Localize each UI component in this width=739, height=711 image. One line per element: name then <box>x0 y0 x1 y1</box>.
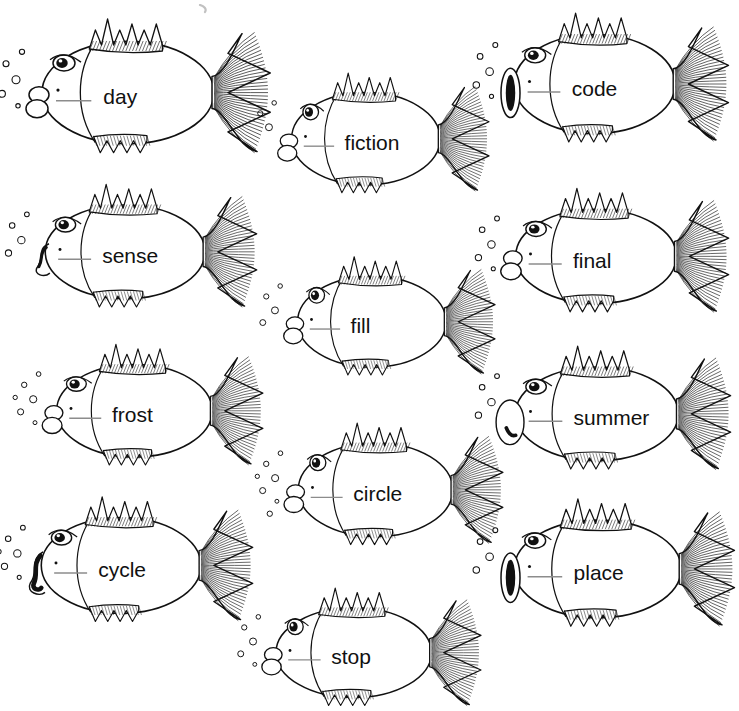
fish-word: frost <box>112 403 153 426</box>
fish-code-drawing: code <box>482 6 734 156</box>
fish-frost: frost <box>26 338 268 478</box>
fish-sense: sense <box>14 178 262 320</box>
fish-word: summer <box>574 406 650 429</box>
fish-word: sense <box>102 244 158 267</box>
fish-summer-drawing: summer <box>484 340 736 482</box>
fish-word: place <box>574 561 624 584</box>
fish-word: fiction <box>345 131 400 154</box>
fish-place: place <box>482 492 739 640</box>
fish-frost-drawing: frost <box>26 338 268 478</box>
fish-word: stop <box>331 645 371 668</box>
fish-word: cycle <box>98 558 146 581</box>
fish-word: fill <box>351 314 371 337</box>
worksheet-canvas: day fiction code sense final fill frost … <box>0 0 739 711</box>
fish-stop-drawing: stop <box>246 582 486 711</box>
fish-place-drawing: place <box>482 492 739 640</box>
fish-fiction-drawing: fiction <box>262 66 494 206</box>
fish-word: code <box>572 77 618 100</box>
fish-fill-drawing: fill <box>268 250 500 388</box>
fish-final: final <box>484 182 734 325</box>
fish-sense-drawing: sense <box>14 178 262 320</box>
fish-word: circle <box>353 482 402 505</box>
fish-code: code <box>482 6 734 156</box>
fish-fiction: fiction <box>262 66 494 206</box>
fish-summer: summer <box>484 340 736 482</box>
fish-word: final <box>573 249 612 272</box>
fish-circle-drawing: circle <box>268 416 508 558</box>
fish-cycle-drawing: cycle <box>10 490 258 635</box>
fish-day: day <box>8 12 276 167</box>
fish-stop: stop <box>246 582 486 711</box>
fish-day-drawing: day <box>8 12 276 167</box>
fish-cycle: cycle <box>10 490 258 635</box>
fish-final-drawing: final <box>484 182 734 325</box>
fish-circle: circle <box>268 416 508 558</box>
fish-fill: fill <box>268 250 500 388</box>
cropped-mark <box>188 0 228 10</box>
fish-word: day <box>103 85 137 108</box>
